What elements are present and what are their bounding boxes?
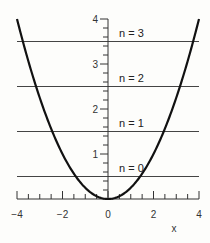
x-tick-label: 0 [105,209,111,220]
x-tick-label: −4 [11,209,23,220]
x-axis-label: x [172,223,177,234]
y-tick-label: 4 [92,14,98,25]
y-tick-label: 1 [92,149,98,160]
x-tick-label: −2 [57,209,69,220]
level-labels: n = 0n = 1n = 2n = 3 [119,27,144,174]
x-tick-label: 4 [196,209,202,220]
energy-level-chart: −4−20241234 n = 0n = 1n = 2n = 3 x [0,0,210,243]
axes: −4−20241234 [11,14,202,221]
level-label: n = 2 [119,72,144,84]
level-label: n = 1 [119,117,144,129]
level-label: n = 0 [119,162,144,174]
x-tick-label: 2 [151,209,157,220]
level-label: n = 3 [119,27,144,39]
y-tick-label: 2 [92,104,98,115]
y-tick-label: 3 [92,59,98,70]
